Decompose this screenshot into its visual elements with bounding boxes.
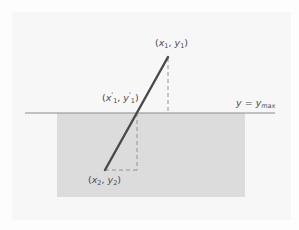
label-point-p1: (x1, y1) — [155, 38, 188, 50]
label-point-p2: (x2, y2) — [88, 175, 121, 187]
clip-window-region — [57, 113, 245, 197]
clipping-diagram — [0, 0, 299, 230]
label-boundary-ymax: y = ymax — [236, 98, 275, 110]
label-intersection-p1-prime: (x'1, y'1) — [102, 92, 139, 105]
